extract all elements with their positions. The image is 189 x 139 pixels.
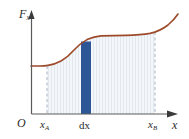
origin-label: O: [17, 117, 26, 129]
force-displacement-diagram: Fx O xA dx xB x: [0, 0, 189, 139]
differential-strip-dx: [81, 42, 91, 115]
strip-label: dx: [79, 120, 90, 131]
area-under-curve: [47, 33, 155, 115]
y-axis: [28, 10, 34, 114]
x-start-label: xA: [40, 119, 49, 130]
x-axis-label: x: [172, 119, 177, 131]
x-end-label-subscript: B: [153, 124, 157, 131]
y-axis-label: Fx: [19, 8, 30, 20]
y-axis-label-subscript: x: [26, 13, 29, 22]
x-start-label-subscript: A: [45, 124, 49, 131]
x-end-label: xB: [148, 119, 157, 130]
